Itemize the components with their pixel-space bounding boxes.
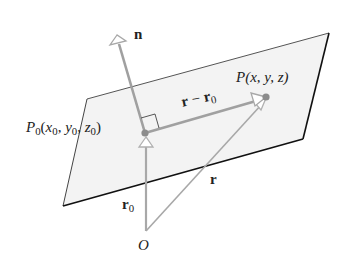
- r0-vector-label: r0: [122, 197, 134, 214]
- normal-vector-arrowhead-icon: [110, 35, 126, 45]
- point-p-label: P(x, y, z): [236, 70, 288, 85]
- point-p0-dot: [141, 129, 148, 136]
- r0-main: r: [122, 196, 129, 212]
- r-vector-label: r: [210, 172, 217, 187]
- plane-diagram: [0, 0, 340, 276]
- p0-y: y: [65, 119, 72, 135]
- p0-sep2: ,: [77, 119, 85, 135]
- r0-sub: 0: [129, 202, 134, 214]
- p0-main: P: [26, 119, 35, 135]
- normal-vector-label: n: [134, 27, 142, 42]
- point-p0-label: P0(x0, y0, z0): [26, 120, 101, 137]
- p0-close: ): [96, 119, 101, 135]
- point-p-dot: [262, 93, 269, 100]
- origin-label: O: [138, 238, 149, 253]
